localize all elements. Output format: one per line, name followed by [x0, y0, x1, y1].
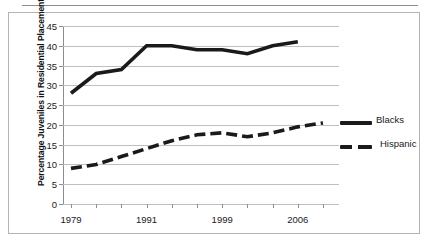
- top-text-fragment-right: ·: [202, 0, 205, 2]
- legend-label: Hispanic: [380, 138, 416, 149]
- x-tick-mark: [121, 204, 122, 208]
- y-tick-mark: [59, 204, 63, 205]
- x-tick-mark: [172, 204, 173, 208]
- y-tick-label: 5: [33, 179, 57, 190]
- x-tick-label: 1999: [212, 214, 233, 225]
- y-tick-label: 35: [33, 60, 57, 71]
- legend-swatch-dashed: [340, 145, 372, 149]
- series-line-hispanic: [71, 123, 323, 168]
- y-tick-label: 25: [33, 100, 57, 111]
- y-tick-label: 15: [33, 139, 57, 150]
- top-text-fragment-left: ·: [25, 0, 28, 2]
- y-tick-label: 45: [33, 21, 57, 32]
- x-tick-mark: [96, 204, 97, 208]
- chart-figure: · · Percentage Juveniles in Residential …: [0, 0, 428, 246]
- series-line-blacks: [71, 42, 298, 93]
- x-tick-mark: [222, 204, 223, 208]
- y-tick-label: 40: [33, 40, 57, 51]
- data-series-layer: [63, 26, 339, 204]
- x-tick-label: 1991: [136, 214, 157, 225]
- y-tick-label: 30: [33, 80, 57, 91]
- legend-item-blacks[interactable]: Blacks: [340, 112, 424, 136]
- x-tick-mark: [298, 204, 299, 208]
- x-tick-mark: [273, 204, 274, 208]
- legend-swatch-solid: [340, 121, 372, 125]
- y-tick-label: 10: [33, 159, 57, 170]
- x-tick-mark: [197, 204, 198, 208]
- legend-item-hispanic[interactable]: Hispanic: [340, 136, 424, 160]
- x-tick-label: 1979: [60, 214, 81, 225]
- x-tick-mark: [323, 204, 324, 208]
- y-tick-label: 20: [33, 119, 57, 130]
- x-tick-mark: [71, 204, 72, 208]
- x-tick-mark: [247, 204, 248, 208]
- plot-area: 051015202530354045 1979199119992006: [63, 26, 339, 203]
- y-tick-label: 0: [33, 199, 57, 210]
- top-cutoff-strip: · ·: [0, 0, 428, 9]
- x-tick-label: 2006: [287, 214, 308, 225]
- legend-label: Blacks: [376, 114, 404, 125]
- chart-legend: BlacksHispanic: [340, 112, 424, 160]
- x-tick-mark: [147, 204, 148, 208]
- top-rule: [22, 5, 418, 6]
